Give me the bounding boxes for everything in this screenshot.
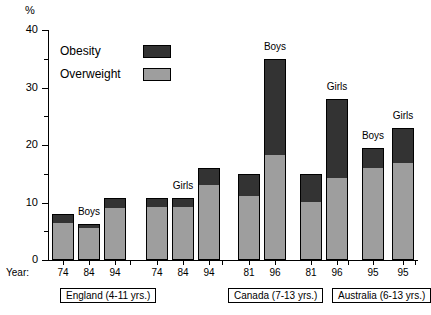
y-tick-5: [44, 231, 49, 232]
bar-segment-overweight: [327, 178, 347, 259]
bar: [238, 174, 260, 260]
legend: Obesity Overweight: [60, 44, 171, 90]
x-tick-6: [249, 260, 250, 265]
x-tick-8: [311, 260, 312, 265]
x-tick-sep-0: [130, 260, 131, 265]
legend-swatch-obesity: [143, 45, 171, 58]
year-label-6: 81: [236, 267, 262, 278]
x-tick-sep-1: [222, 260, 223, 265]
annotation-boys-4: Boys: [353, 130, 393, 141]
y-tick-label-40: 40: [14, 23, 38, 35]
bar-segment-obesity: [393, 129, 413, 163]
group-label-0: England (4-11 yrs.): [60, 288, 156, 303]
y-tick-30: [42, 88, 49, 89]
year-label-1: 84: [76, 267, 102, 278]
year-label-5: 94: [196, 267, 222, 278]
year-label-7: 96: [262, 267, 288, 278]
bar: [146, 198, 168, 260]
x-tick-sep-3: [415, 260, 416, 265]
bar-segment-overweight: [53, 223, 73, 259]
bar-segment-obesity: [301, 175, 321, 203]
bar: [326, 99, 348, 260]
bar-segment-overweight: [393, 163, 413, 259]
bar: [392, 128, 414, 260]
year-label-10: 95: [360, 267, 386, 278]
year-prefix-label: Year:: [6, 267, 29, 278]
bar-segment-overweight: [301, 202, 321, 259]
bar-segment-overweight: [363, 168, 383, 260]
y-tick-label-10: 10: [14, 196, 38, 208]
bar-segment-obesity: [265, 60, 285, 156]
y-tick-label-20: 20: [14, 138, 38, 150]
y-tick-25: [44, 116, 49, 117]
year-label-8: 81: [298, 267, 324, 278]
x-tick-9: [337, 260, 338, 265]
x-tick-3: [157, 260, 158, 265]
y-tick-35: [44, 59, 49, 60]
bar: [78, 224, 100, 260]
year-label-2: 94: [102, 267, 128, 278]
y-axis-unit-label: %: [25, 4, 35, 16]
x-tick-11: [403, 260, 404, 265]
bar-segment-obesity: [363, 149, 383, 168]
bar-segment-overweight: [173, 207, 193, 259]
year-label-9: 96: [324, 267, 350, 278]
y-tick-15: [44, 174, 49, 175]
bar-segment-overweight: [265, 155, 285, 259]
x-tick-10: [373, 260, 374, 265]
y-tick-label-0: 0: [14, 253, 38, 265]
annotation-boys-0: Boys: [69, 206, 109, 217]
year-label-3: 74: [144, 267, 170, 278]
bar-segment-obesity: [239, 175, 259, 196]
legend-swatch-overweight: [143, 68, 171, 81]
y-tick-40: [42, 30, 49, 31]
legend-label-overweight: Overweight: [60, 67, 143, 81]
y-tick-10: [42, 203, 49, 204]
x-tick-0: [63, 260, 64, 265]
group-label-2: Australia (6-13 yrs.): [332, 288, 431, 303]
bar-segment-obesity: [327, 100, 347, 178]
group-label-1: Canada (7-13 yrs.): [228, 288, 323, 303]
x-tick-7: [275, 260, 276, 265]
legend-item-obesity: Obesity: [60, 44, 171, 58]
x-tick-2: [115, 260, 116, 265]
x-tick-sep-2: [348, 260, 349, 265]
y-tick-label-30: 30: [14, 81, 38, 93]
bar-segment-overweight: [239, 196, 259, 259]
x-tick-5: [209, 260, 210, 265]
bar-segment-overweight: [147, 207, 167, 259]
annotation-girls-5: Girls: [383, 110, 423, 121]
bar: [172, 198, 194, 260]
year-label-4: 84: [170, 267, 196, 278]
bar: [264, 59, 286, 260]
bar-segment-overweight: [199, 185, 219, 259]
x-tick-4: [183, 260, 184, 265]
bar-segment-obesity: [173, 199, 193, 206]
annotation-girls-1: Girls: [163, 180, 203, 191]
bar: [362, 148, 384, 260]
annotation-girls-3: Girls: [317, 81, 357, 92]
bar: [300, 174, 322, 260]
legend-item-overweight: Overweight: [60, 67, 171, 81]
bar-segment-obesity: [147, 199, 167, 206]
year-label-0: 74: [50, 267, 76, 278]
bar: [52, 214, 74, 260]
legend-label-obesity: Obesity: [60, 44, 143, 58]
x-axis-line: [48, 260, 418, 261]
bar-segment-overweight: [79, 228, 99, 259]
year-label-11: 95: [390, 267, 416, 278]
y-tick-0: [42, 260, 49, 261]
x-tick-1: [89, 260, 90, 265]
annotation-boys-2: Boys: [255, 41, 295, 52]
y-tick-20: [42, 145, 49, 146]
